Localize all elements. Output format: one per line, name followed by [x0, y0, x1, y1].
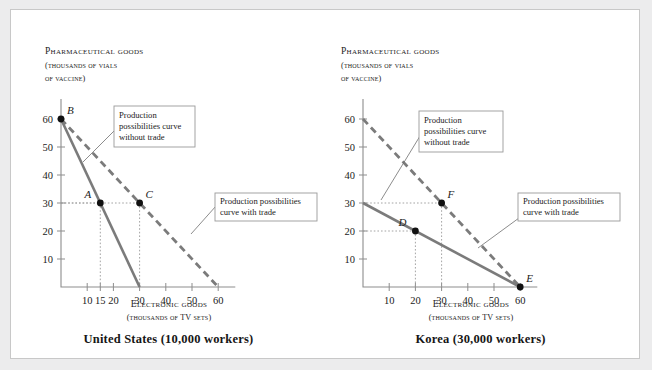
y-tick-label: 50	[345, 142, 356, 153]
data-point-marker	[58, 116, 65, 123]
data-point-marker	[412, 228, 419, 235]
y-axis-title: Pharmaceutical goods	[45, 46, 143, 56]
x-axis-title-group: Electronic goods (thousands of TV sets)	[127, 299, 212, 322]
data-point-label: E	[525, 272, 533, 284]
x-axis-sub: (thousands of TV sets)	[429, 313, 514, 322]
callout-line1: Production	[119, 110, 157, 120]
chart-svg-united-states: Pharmaceutical goods (thousands of vials…	[11, 10, 326, 332]
callout-leader-line	[478, 218, 519, 248]
y-tick-label: 40	[345, 170, 356, 181]
y-tick-label: 50	[43, 142, 54, 153]
x-tick-label: 20	[410, 295, 421, 306]
chart-caption-korea: Korea (30,000 workers)	[323, 332, 638, 347]
data-point-marker	[438, 200, 445, 207]
y-axis-title-group: Pharmaceutical goods (thousands of vials…	[45, 46, 143, 83]
callout-without-trade-us: Production possibilities curve without t…	[83, 106, 195, 162]
callout-line1: Production possibilities	[220, 196, 302, 206]
data-point-marker	[517, 284, 524, 291]
y-axis-title: Pharmaceutical goods	[341, 46, 439, 56]
y-tick-label: 60	[43, 114, 54, 125]
callout-without-trade-korea: Production possibilities curve without t…	[381, 111, 503, 200]
figure-frame: Pharmaceutical goods (thousands of vials…	[10, 9, 640, 359]
data-point-label: D	[397, 216, 406, 228]
callout-with-trade-korea: Production possibilities curve with trad…	[478, 193, 620, 248]
data-point-label: F	[447, 188, 455, 200]
callout-leader-line	[191, 206, 216, 234]
y-axis-sub-line1: (thousands of vials	[45, 61, 117, 70]
x-axis-title-group: Electronic goods (thousands of TV sets)	[429, 299, 514, 322]
data-point-label: A	[84, 188, 92, 200]
y-tick-label: 30	[345, 198, 356, 209]
x-axis-title: Electronic goods	[433, 299, 509, 309]
y-tick-label: 10	[345, 254, 356, 265]
x-axis-sub: (thousands of TV sets)	[127, 313, 212, 322]
x-tick-label: 20	[108, 295, 119, 306]
x-tick-label: 60	[213, 295, 224, 306]
chart-svg-korea: Pharmaceutical goods (thousands of vials…	[323, 10, 638, 332]
callout-with-trade-us: Production possibilities curve with trad…	[191, 193, 317, 234]
y-tick-label: 30	[43, 198, 54, 209]
y-tick-label: 60	[345, 114, 356, 125]
data-point-marker	[97, 200, 104, 207]
y-axis-sub-line1: (thousands of vials	[341, 61, 413, 70]
y-tick-label: 20	[345, 226, 356, 237]
x-axis-title: Electronic goods	[131, 299, 207, 309]
x-tick-label: 10	[384, 295, 395, 306]
chart-caption-united-states: United States (10,000 workers)	[11, 332, 326, 347]
x-tick-label: 15	[95, 295, 106, 306]
x-tick-label: 10	[82, 295, 93, 306]
y-tick-label: 20	[43, 226, 54, 237]
callout-line2: possibilities curve	[119, 121, 181, 131]
data-point-marker	[136, 200, 143, 207]
y-axis-title-group: Pharmaceutical goods (thousands of vials…	[341, 46, 439, 83]
callout-line2: possibilities curve	[424, 126, 486, 136]
y-tick-label: 40	[43, 170, 54, 181]
callout-line1: Production	[424, 115, 462, 125]
x-tick-label: 60	[515, 295, 526, 306]
callout-line3: without trade	[424, 137, 470, 147]
y-axis-sub-line2: of vaccine)	[341, 74, 382, 83]
y-tick-label: 10	[43, 254, 54, 265]
callout-line3: without trade	[119, 132, 165, 142]
callout-line1: Production possibilities	[523, 196, 605, 206]
data-point-label: C	[146, 188, 154, 200]
curve-without-trade	[363, 203, 520, 287]
y-axis-sub-line2: of vaccine)	[45, 74, 86, 83]
data-point-label: B	[67, 104, 74, 116]
callout-line2: curve with trade	[220, 207, 276, 217]
chart-panel-korea: Pharmaceutical goods (thousands of vials…	[323, 10, 638, 360]
chart-panel-united-states: Pharmaceutical goods (thousands of vials…	[11, 10, 326, 360]
callout-line2: curve with trade	[523, 207, 579, 217]
